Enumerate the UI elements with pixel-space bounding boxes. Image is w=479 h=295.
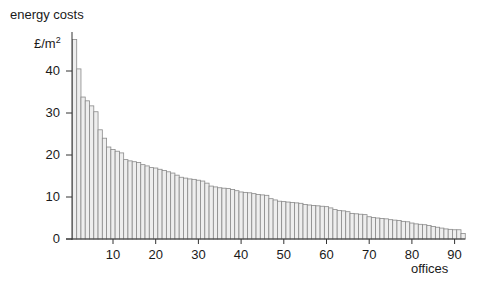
bar [406,222,410,239]
x-tick-label: 60 [312,247,342,262]
bar [128,161,132,239]
bar [205,183,209,239]
bar [85,101,89,239]
bar [154,168,158,239]
bar [324,207,328,239]
bar [235,191,239,239]
bar [265,195,269,239]
bar [337,210,341,239]
x-tick-label: 80 [397,247,427,262]
bar [316,206,320,239]
bar [196,180,200,239]
bar [423,225,427,239]
bar [320,206,324,239]
bar [303,205,307,239]
x-tick-label: 30 [183,247,213,262]
bar [418,224,422,239]
bar [248,193,252,239]
bar [94,112,98,239]
y-tick-label: 30 [30,105,60,120]
bar [111,150,115,239]
bar [260,195,264,239]
y-tick-label: 40 [30,63,60,78]
bar [201,181,205,239]
bar [158,169,162,239]
bar [226,189,230,239]
bar [269,199,273,239]
bar [179,177,183,239]
bar [222,188,226,239]
bar [427,226,431,239]
bar [435,227,439,239]
bar [359,214,363,239]
bar [277,201,281,239]
bar [119,153,123,239]
bar [183,178,187,239]
bar [363,215,367,239]
bar [256,194,260,239]
bar [286,202,290,239]
x-tick-label: 90 [440,247,470,262]
bar [440,228,444,239]
bar [384,219,388,239]
bar [388,220,392,239]
bar [282,202,286,239]
bar [444,229,448,239]
bar [371,218,375,239]
bar [102,138,106,239]
bar [145,166,149,239]
bar [81,97,85,239]
bar [90,106,94,239]
bar [376,218,380,239]
bar [213,187,217,239]
bar [230,189,234,239]
bar [393,220,397,239]
bar [410,223,414,239]
bar [175,175,179,239]
bar [136,163,140,239]
bar [312,205,316,239]
bar [329,208,333,239]
bar [273,200,277,239]
bar [166,172,170,239]
bar [72,40,76,240]
bar [132,162,136,239]
bar [77,69,81,239]
bar [452,230,456,239]
bar [171,173,175,239]
x-tick-label: 40 [226,247,256,262]
bar [401,221,405,239]
bar [367,217,371,239]
bar [107,147,111,239]
bar [98,130,102,239]
bar [209,186,213,239]
bar [307,205,311,239]
bar [192,179,196,239]
y-tick-label: 20 [30,147,60,162]
x-tick-label: 50 [269,247,299,262]
bar [341,211,345,239]
bar [290,202,294,239]
bar [448,229,452,239]
bar [354,214,358,239]
bar [294,203,298,239]
bar [243,192,247,239]
bar [141,165,145,239]
x-tick-label: 10 [98,247,128,262]
x-tick-label: 20 [141,247,171,262]
bar [218,188,222,239]
bar [414,224,418,239]
bar [115,151,119,239]
bar [124,160,128,239]
y-tick-label: 10 [30,189,60,204]
bar [333,210,337,239]
bar [299,203,303,239]
bar [149,168,153,239]
bar [346,212,350,239]
bar [252,194,256,239]
bars-group [72,40,465,240]
y-tick-label: 0 [30,231,60,246]
bar [397,221,401,239]
bar [162,171,166,239]
bar [239,192,243,239]
